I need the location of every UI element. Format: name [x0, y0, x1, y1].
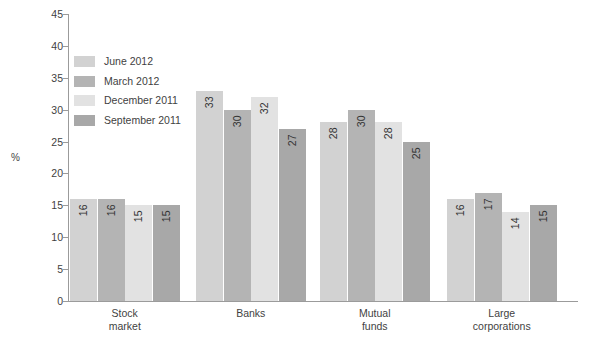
y-tick: 25	[20, 137, 63, 147]
bar[interactable]: 17	[475, 193, 502, 301]
bar-value-label: 28	[320, 127, 347, 139]
bar[interactable]: 30	[348, 110, 375, 301]
category-label-1: Banks	[186, 307, 316, 320]
y-tick-label: 5	[29, 264, 63, 274]
y-tick: 30	[20, 105, 63, 115]
y-tick: 35	[20, 73, 63, 83]
y-tick-label: 15	[29, 200, 63, 210]
x-axis-line	[68, 301, 578, 302]
bar[interactable]: 33	[196, 91, 223, 301]
y-tick-label: 35	[29, 73, 63, 83]
bar-value-label: 16	[70, 204, 97, 216]
bar-value-label: 15	[153, 210, 180, 222]
bar-chart: 454035302520151050 % June 2012March 2012…	[0, 0, 590, 342]
category-label-line: corporations	[437, 320, 567, 333]
y-tick-label: 10	[29, 232, 63, 242]
y-tick-label: 45	[29, 9, 63, 19]
bar-value-label: 16	[447, 204, 474, 216]
bar-group-3: 16171415	[447, 14, 557, 301]
bar-value-label: 15	[530, 210, 557, 222]
y-tick: 5	[20, 264, 63, 274]
bar-value-label: 27	[279, 134, 306, 146]
bar-value-label: 30	[348, 115, 375, 127]
bar[interactable]: 15	[530, 205, 557, 301]
bar[interactable]: 16	[447, 199, 474, 301]
y-axis-title: %	[11, 152, 20, 163]
bar-value-label: 30	[224, 115, 251, 127]
bar[interactable]: 28	[375, 122, 402, 301]
bar[interactable]: 28	[320, 122, 347, 301]
bar-group-2: 28302825	[320, 14, 430, 301]
y-tick: 15	[20, 200, 63, 210]
bar-value-label: 15	[125, 210, 152, 222]
bar[interactable]: 16	[98, 199, 125, 301]
category-label-0: Stockmarket	[60, 307, 190, 333]
bar[interactable]: 15	[125, 205, 152, 301]
bar[interactable]: 16	[70, 199, 97, 301]
bar[interactable]: 27	[279, 129, 306, 301]
category-label-line: Mutual	[310, 307, 440, 320]
bar-value-label: 28	[375, 127, 402, 139]
category-label-line: Large	[437, 307, 567, 320]
bar[interactable]: 32	[251, 97, 278, 301]
bar-value-label: 32	[251, 102, 278, 114]
bar[interactable]: 30	[224, 110, 251, 301]
bar-value-label: 14	[502, 217, 529, 229]
category-label-line: Stock	[60, 307, 190, 320]
y-tick-label: 20	[29, 168, 63, 178]
plot-area: 16161515333032272830282516171415	[68, 14, 578, 301]
category-label-line: market	[60, 320, 190, 333]
category-label-line: funds	[310, 320, 440, 333]
bar[interactable]: 15	[153, 205, 180, 301]
bar[interactable]: 14	[502, 212, 529, 301]
y-tick: 10	[20, 232, 63, 242]
y-tick: 0	[20, 296, 63, 306]
bar-group-1: 33303227	[196, 14, 306, 301]
y-tick: 40	[20, 41, 63, 51]
category-label-line: Banks	[186, 307, 316, 320]
bar-value-label: 16	[98, 204, 125, 216]
bar-value-label: 25	[403, 147, 430, 159]
y-tick-mark	[63, 301, 68, 302]
category-label-3: Largecorporations	[437, 307, 567, 333]
y-tick: 45	[20, 9, 63, 19]
y-tick-label: 40	[29, 41, 63, 51]
y-tick-label: 25	[29, 137, 63, 147]
y-tick-label: 0	[29, 296, 63, 306]
bar-value-label: 33	[196, 96, 223, 108]
y-tick: 20	[20, 168, 63, 178]
y-tick-label: 30	[29, 105, 63, 115]
bar-value-label: 17	[475, 198, 502, 210]
bar[interactable]: 25	[403, 142, 430, 301]
bar-group-0: 16161515	[70, 14, 180, 301]
category-label-2: Mutualfunds	[310, 307, 440, 333]
